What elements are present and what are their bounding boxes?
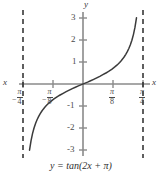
tangent-function-figure: y x x 3 2 1 -1 -2 -3 − π 4 − π 8 π 8 [0,0,162,178]
y-tick-label-2: 2 [71,35,76,44]
x-tick-label-neg-pi-over-8: − π 8 [42,88,53,106]
fraction-denominator: 8 [48,98,52,106]
x-tick-label-pi-over-8: π 8 [109,88,115,106]
minus-sign: − [42,96,47,104]
figure-caption: y = tan(2x + π) [0,160,162,171]
y-tick-label-neg3: -3 [67,145,75,154]
x-axis-label-left: x [3,78,7,87]
x-tick-label-neg-pi-over-4: − π 4 [12,88,23,106]
plot-canvas [0,0,162,178]
fraction-numerator: π [17,88,23,96]
y-axis-label: y [84,0,88,9]
y-tick-label-3: 3 [71,13,76,22]
fraction-denominator: 4 [18,98,22,106]
fraction-numerator: π [139,88,145,96]
fraction-denominator: 8 [110,98,114,106]
y-tick-label-neg1: -1 [67,101,75,110]
y-tick-label-1: 1 [72,57,77,66]
minus-sign: − [12,96,17,104]
x-axis-label-right: x [152,78,156,87]
fraction-numerator: π [47,88,53,96]
fraction-denominator: 4 [140,98,144,106]
y-tick-label-neg2: -2 [67,123,75,132]
fraction-numerator: π [109,88,115,96]
x-tick-label-pi-over-4: π 4 [139,88,145,106]
